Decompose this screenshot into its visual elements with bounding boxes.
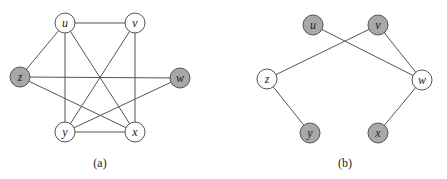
node-z: z <box>10 67 30 87</box>
graph-diagram: uvzwyx (a) uvzwyx (b) <box>0 0 447 179</box>
graph-a-edges <box>20 23 180 132</box>
node-y: y <box>55 122 75 142</box>
node-w: w <box>170 68 190 88</box>
node-label: z <box>264 72 270 86</box>
node-x: x <box>125 122 145 142</box>
node-label: w <box>418 73 426 87</box>
node-label: z <box>17 70 23 84</box>
edge-v-z <box>267 25 378 79</box>
edge-u-w <box>313 25 422 80</box>
graph-b-edges <box>267 25 422 133</box>
node-label: y <box>306 126 313 140</box>
node-label: u <box>62 16 68 30</box>
node-label: u <box>310 18 316 32</box>
node-label: w <box>176 71 184 85</box>
node-v: v <box>368 15 388 35</box>
node-label: x <box>374 126 381 140</box>
node-x: x <box>368 123 388 143</box>
graph-b-nodes: uvzwyx <box>257 15 432 143</box>
node-label: y <box>61 125 68 139</box>
edge-v-w <box>378 25 422 80</box>
graph-b-caption: (b) <box>338 156 352 170</box>
node-u: u <box>303 15 323 35</box>
node-y: y <box>300 123 320 143</box>
node-u: u <box>55 13 75 33</box>
graph-a-caption: (a) <box>93 156 106 170</box>
graph-a: uvzwyx (a) <box>10 13 190 170</box>
node-z: z <box>257 69 277 89</box>
edge-z-w <box>20 77 180 78</box>
node-label: v <box>375 18 381 32</box>
node-label: v <box>132 16 138 30</box>
graph-b: uvzwyx (b) <box>257 15 432 170</box>
node-v: v <box>125 13 145 33</box>
edge-u-z <box>20 23 65 77</box>
node-w: w <box>412 70 432 90</box>
node-label: x <box>131 125 138 139</box>
